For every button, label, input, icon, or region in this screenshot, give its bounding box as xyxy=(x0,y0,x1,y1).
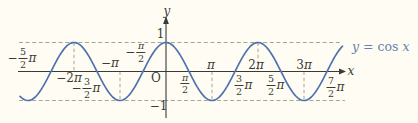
plot-canvas xyxy=(0,0,418,123)
x-axis-arrowhead xyxy=(339,69,346,75)
y-axis-arrowhead xyxy=(163,16,169,24)
curve-equation-label: y = cos x xyxy=(352,41,409,54)
